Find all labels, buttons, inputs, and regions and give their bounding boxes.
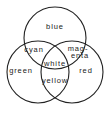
label-blue: blue: [46, 22, 64, 31]
label-magenta-line2: enta: [71, 51, 89, 60]
label-white: white: [43, 59, 66, 68]
label-cyan: cyan: [24, 45, 43, 54]
venn-diagram: blue cyan mag- enta white green red yell…: [0, 0, 109, 113]
label-green: green: [9, 66, 33, 75]
label-red: red: [79, 66, 93, 75]
label-yellow: yellow: [42, 76, 68, 85]
